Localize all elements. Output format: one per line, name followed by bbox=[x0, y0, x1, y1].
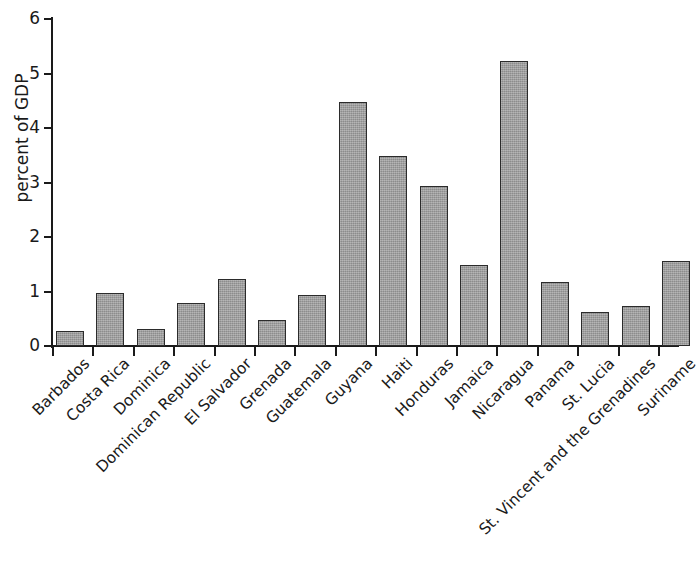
y-tick-label: 1 bbox=[0, 283, 40, 300]
y-tick-label: 3 bbox=[0, 174, 40, 191]
y-tick-label: 5 bbox=[0, 65, 40, 82]
y-tick-mark bbox=[44, 291, 52, 293]
y-tick-mark bbox=[44, 73, 52, 75]
y-tick-mark bbox=[44, 127, 52, 129]
y-tick-label: 2 bbox=[0, 228, 40, 245]
y-tick-label: 6 bbox=[0, 10, 40, 27]
bar bbox=[56, 331, 84, 346]
y-tick-mark bbox=[44, 182, 52, 184]
bar bbox=[420, 186, 448, 346]
y-tick-label: 4 bbox=[0, 119, 40, 136]
y-tick-mark bbox=[44, 18, 52, 20]
y-tick-mark bbox=[44, 345, 52, 347]
y-tick-mark bbox=[44, 236, 52, 238]
bar bbox=[500, 61, 528, 346]
x-tick-mark bbox=[52, 347, 54, 356]
bar bbox=[339, 102, 367, 346]
y-tick-label: 0 bbox=[0, 337, 40, 354]
